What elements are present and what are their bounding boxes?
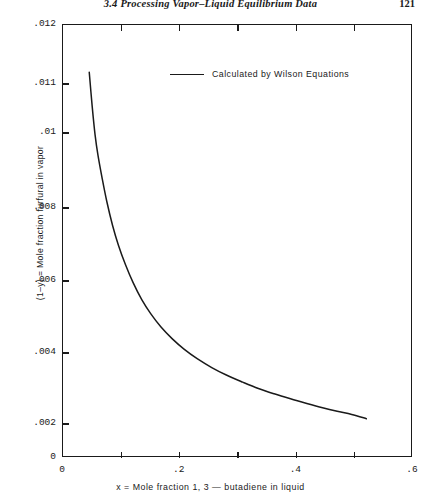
figure-page: 3.4 Processing Vapor–Liquid Equilibrium … bbox=[0, 0, 421, 498]
y-tick-label: .006 bbox=[0, 274, 56, 285]
x-tick-mark-bottom bbox=[354, 452, 355, 458]
legend: Calculated by Wilson Equations bbox=[170, 69, 349, 79]
x-tick-label: .2 bbox=[159, 464, 199, 475]
y-tick-label: 0 bbox=[0, 451, 56, 462]
x-tick-mark-top bbox=[237, 25, 238, 31]
curve-layer bbox=[63, 25, 413, 458]
x-axis-title: x = Mole fraction 1, 3 — butadiene in li… bbox=[0, 482, 421, 492]
legend-line-swatch bbox=[170, 74, 204, 75]
y-tick-label: .008 bbox=[0, 201, 56, 212]
x-tick-mark-bottom bbox=[296, 452, 297, 458]
x-tick-label: .6 bbox=[392, 464, 421, 475]
x-tick-mark-top bbox=[354, 25, 355, 31]
plot-area bbox=[62, 24, 412, 457]
x-tick-mark-top bbox=[296, 25, 297, 31]
series-line-calculated-by-wilson-equations bbox=[89, 72, 366, 418]
x-tick-label: 0 bbox=[42, 464, 82, 475]
y-tick-label: .011 bbox=[0, 77, 56, 88]
x-tick-label: .4 bbox=[275, 464, 315, 475]
y-tick-mark bbox=[63, 352, 69, 353]
y-tick-mark bbox=[63, 83, 69, 84]
x-tick-mark-bottom bbox=[179, 452, 180, 458]
x-tick-mark-bottom bbox=[237, 452, 238, 458]
y-tick-label: .01 bbox=[0, 126, 56, 137]
y-axis-title: (1–y) = Mole fraction furfural in vapor bbox=[35, 123, 45, 323]
y-tick-mark bbox=[63, 132, 69, 133]
y-tick-mark bbox=[63, 207, 69, 208]
page-number: 121 bbox=[399, 0, 415, 9]
y-tick-label: .004 bbox=[0, 346, 56, 357]
legend-label: Calculated by Wilson Equations bbox=[212, 69, 349, 79]
x-tick-mark-top bbox=[121, 25, 122, 31]
y-tick-label: .012 bbox=[0, 18, 56, 29]
running-head: 3.4 Processing Vapor–Liquid Equilibrium … bbox=[0, 0, 421, 12]
x-tick-mark-top bbox=[179, 25, 180, 31]
y-tick-mark bbox=[63, 423, 69, 424]
running-head-title: 3.4 Processing Vapor–Liquid Equilibrium … bbox=[0, 0, 421, 9]
y-tick-mark bbox=[63, 280, 69, 281]
x-tick-mark-bottom bbox=[121, 452, 122, 458]
y-tick-label: .002 bbox=[0, 417, 56, 428]
